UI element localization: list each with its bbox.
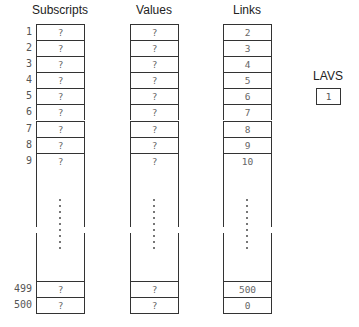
gap-left-line-lower xyxy=(223,233,224,281)
values-cell: ? xyxy=(130,297,179,314)
values-cell: ? xyxy=(130,24,179,40)
subscripts-cell: ? xyxy=(36,137,85,153)
links-cell: 2 xyxy=(223,24,272,40)
links-cell: 10 xyxy=(223,153,272,169)
gap-right-line-lower xyxy=(271,233,272,281)
row-label-5: 5 xyxy=(2,88,32,104)
subscripts-cell: ? xyxy=(36,153,85,169)
links-cell: 5 xyxy=(223,72,272,88)
links-cell: 4 xyxy=(223,56,272,72)
subscripts-cell: ? xyxy=(36,72,85,88)
row-label-4: 4 xyxy=(2,72,32,88)
row-label-7: 7 xyxy=(2,121,32,137)
row-label-3: 3 xyxy=(2,56,32,72)
row-label-499: 499 xyxy=(2,281,32,297)
row-labels: 1 2 3 4 5 6 7 8 9 499 500 xyxy=(0,24,32,324)
gap-right-line-lower xyxy=(84,233,85,281)
gap-right-line-upper xyxy=(178,169,179,227)
values-cell: ? xyxy=(130,88,179,104)
values-cell: ? xyxy=(130,281,179,297)
values-cell: ? xyxy=(130,56,179,72)
row-label-8: 8 xyxy=(2,137,32,153)
row-label-1: 1 xyxy=(2,24,32,40)
subscripts-cell: ? xyxy=(36,56,85,72)
subscripts-cell: ? xyxy=(36,40,85,56)
lavs-title: LAVS xyxy=(311,69,345,83)
subscripts-cell: ? xyxy=(36,121,85,137)
gap-right-line-lower xyxy=(178,233,179,281)
values-ellipsis-gap xyxy=(130,169,177,281)
values-cell: ? xyxy=(130,72,179,88)
gap-right-line-upper xyxy=(84,169,85,227)
subscripts-cell: ? xyxy=(36,104,85,120)
subscripts-cell: ? xyxy=(36,281,85,297)
gap-left-line-upper xyxy=(130,169,131,227)
gap-left-line-lower xyxy=(130,233,131,281)
subscripts-title: Subscripts xyxy=(20,3,100,17)
gap-left-line-upper xyxy=(36,169,37,227)
vertical-ellipsis-icon xyxy=(59,197,61,253)
values-cell: ? xyxy=(130,137,179,153)
links-cell: 3 xyxy=(223,40,272,56)
links-title: Links xyxy=(207,3,287,17)
vertical-ellipsis-icon xyxy=(153,197,155,253)
subscripts-ellipsis-gap xyxy=(36,169,83,281)
gap-left-line-lower xyxy=(36,233,37,281)
vertical-ellipsis-icon xyxy=(246,197,248,253)
row-label-9: 9 xyxy=(2,153,32,169)
links-cell: 8 xyxy=(223,121,272,137)
links-cell: 0 xyxy=(223,297,272,314)
values-title: Values xyxy=(114,3,194,17)
values-cell: ? xyxy=(130,121,179,137)
links-cell: 6 xyxy=(223,88,272,104)
values-cell: ? xyxy=(130,104,179,120)
links-cell: 500 xyxy=(223,281,272,297)
row-label-2: 2 xyxy=(2,40,32,56)
row-label-500: 500 xyxy=(2,297,32,313)
values-cell: ? xyxy=(130,153,179,169)
links-cell: 9 xyxy=(223,137,272,153)
lavs-value-box: 1 xyxy=(316,88,341,105)
gap-left-line-upper xyxy=(223,169,224,227)
subscripts-cell: ? xyxy=(36,88,85,104)
gap-right-line-upper xyxy=(271,169,272,227)
subscripts-cell: ? xyxy=(36,297,85,314)
values-cell: ? xyxy=(130,40,179,56)
subscripts-cell: ? xyxy=(36,24,85,40)
row-label-6: 6 xyxy=(2,104,32,120)
links-ellipsis-gap xyxy=(223,169,270,281)
links-cell: 7 xyxy=(223,104,272,120)
